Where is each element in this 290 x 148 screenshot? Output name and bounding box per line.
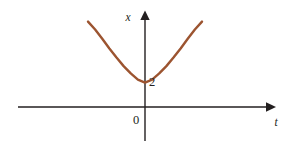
t-axis-label: t xyxy=(274,116,278,128)
horizontal-axis xyxy=(18,102,276,111)
graph-canvas: x t 0 2 xyxy=(0,0,290,148)
origin-label: 0 xyxy=(133,113,139,127)
t-axis-arrow-icon xyxy=(266,102,276,111)
x-axis-arrow-icon xyxy=(140,11,149,21)
graph-figure: x t 0 2 xyxy=(0,0,290,148)
x-axis-label: x xyxy=(124,11,131,23)
minimum-value-label: 2 xyxy=(149,75,155,89)
